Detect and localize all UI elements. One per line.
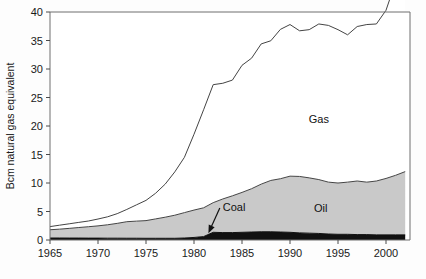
gas-series-label: Gas — [309, 113, 330, 125]
x-tick-label: 1975 — [134, 247, 158, 259]
stacked-area-chart: 0510152025303540 19651970197519801985199… — [0, 0, 426, 279]
oil-series-label: Oil — [314, 202, 327, 214]
chart-figure: 0510152025303540 19651970197519801985199… — [0, 0, 426, 279]
y-tick-label: 30 — [31, 63, 43, 75]
x-tick-label: 1970 — [86, 247, 110, 259]
y-tick-label: 40 — [31, 6, 43, 18]
x-tick-label: 1980 — [182, 247, 206, 259]
y-axis-ticks: 0510152025303540 — [31, 6, 50, 246]
y-tick-label: 20 — [31, 120, 43, 132]
y-tick-label: 35 — [31, 35, 43, 47]
y-tick-label: 5 — [37, 206, 43, 218]
x-tick-label: 1985 — [230, 247, 254, 259]
y-tick-label: 0 — [37, 234, 43, 246]
x-tick-label: 1965 — [38, 247, 62, 259]
x-axis-ticks: 19651970197519801985199019952000 — [38, 240, 398, 259]
y-tick-label: 25 — [31, 92, 43, 104]
x-tick-label: 2000 — [374, 247, 398, 259]
y-axis-title: Bcm natural gas equivalent — [4, 63, 16, 190]
coal-series-label: Coal — [223, 201, 246, 213]
x-tick-label: 1990 — [278, 247, 302, 259]
y-tick-label: 15 — [31, 149, 43, 161]
y-tick-label: 10 — [31, 177, 43, 189]
x-tick-label: 1995 — [326, 247, 350, 259]
